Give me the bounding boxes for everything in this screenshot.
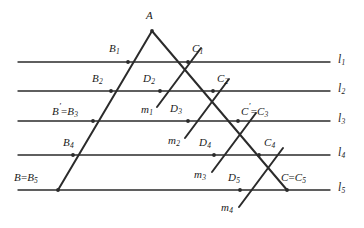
label-A: A — [146, 10, 153, 21]
line-label-l1: l1 — [338, 54, 345, 66]
point-C2 — [211, 89, 215, 93]
point-C5 — [285, 188, 289, 192]
label-D2: D2 — [143, 73, 155, 84]
label-B1: B1 — [109, 43, 120, 54]
point-B2 — [109, 89, 113, 93]
point-D2 — [158, 89, 162, 93]
label-D4: D4 — [199, 137, 211, 148]
point-C3 — [236, 119, 240, 123]
label-m2: m2 — [168, 135, 180, 146]
point-B4 — [71, 153, 75, 157]
label-D3: D3 — [170, 103, 182, 114]
transversal-m1 — [157, 48, 201, 107]
transversal-m3 — [212, 113, 256, 172]
label-C5: C=C5 — [281, 172, 306, 183]
label-Cprime: C′=C3 — [241, 103, 268, 117]
label-B2: B2 — [92, 73, 103, 84]
label-C4: C4 — [264, 137, 276, 148]
point-C1 — [186, 60, 190, 64]
point-B3 — [91, 119, 95, 123]
geometry-figure: AB1C1B2D2C2m1B′=B3D3C′=C3m2B4D4C4m3B=B5D… — [0, 0, 364, 228]
label-m4: m4 — [221, 202, 233, 213]
label-C2: C2 — [217, 73, 229, 84]
label-D5: D5 — [228, 172, 240, 183]
label-B4: B4 — [63, 137, 74, 148]
label-Bprime: B′=B3 — [52, 103, 78, 117]
point-D3 — [186, 119, 190, 123]
line-label-l5: l5 — [338, 182, 345, 194]
point-B5 — [56, 188, 60, 192]
point-B1 — [126, 60, 130, 64]
label-C1: C1 — [192, 43, 204, 54]
line-label-l4: l4 — [338, 147, 345, 159]
transversal-m2 — [185, 79, 229, 138]
label-B5: B=B5 — [14, 172, 38, 183]
point-D4 — [212, 153, 216, 157]
label-m3: m3 — [194, 169, 206, 180]
point-D5 — [238, 188, 242, 192]
point-A — [150, 29, 154, 33]
point-C4 — [257, 153, 261, 157]
line-label-l2: l2 — [338, 83, 345, 95]
line-label-l3: l3 — [338, 113, 345, 125]
label-m1: m1 — [141, 104, 153, 115]
